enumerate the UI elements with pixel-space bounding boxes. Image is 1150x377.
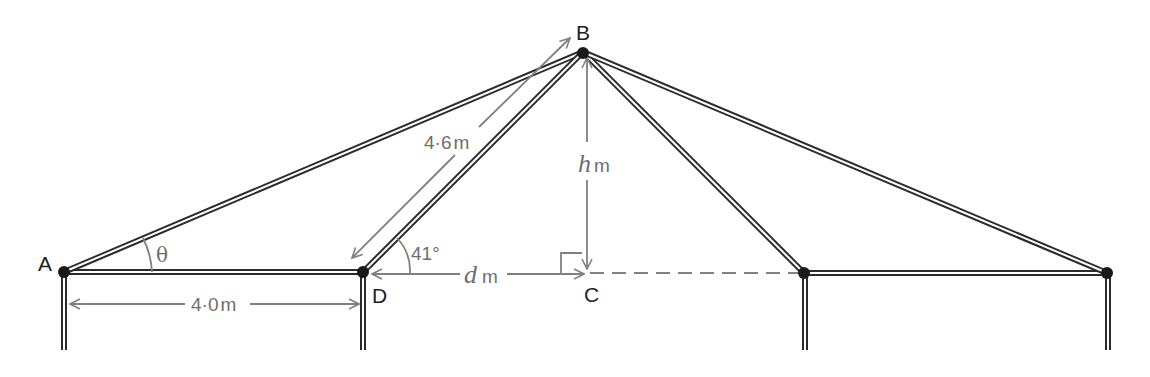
dim-label-d: dm	[464, 260, 498, 289]
node-f	[1101, 267, 1113, 279]
dim-d-unit: m	[482, 266, 498, 287]
angle-arc-41	[397, 238, 410, 273]
dim-ad-value: 4·0	[191, 294, 218, 315]
angle-arc-theta	[143, 238, 152, 272]
right-angle-marker	[561, 253, 582, 274]
dim-ad-unit: m	[220, 294, 236, 315]
label-d: D	[372, 284, 387, 307]
beam-db	[363, 52, 583, 272]
angle-label-theta: θ	[156, 243, 168, 267]
node-b	[577, 47, 589, 59]
node-d	[357, 266, 369, 278]
label-a: A	[38, 252, 52, 275]
dim-h-unit: m	[594, 155, 610, 176]
beam-bf	[583, 52, 1107, 273]
angle-label-41: 41°	[411, 243, 440, 264]
dimensions	[70, 38, 587, 304]
dim-label-h: hm	[578, 149, 610, 178]
beam-ab	[64, 52, 583, 272]
node-a	[58, 266, 70, 278]
roof-frame-diagram: A B C D 4·0m 4·6m hm dm θ 41°	[0, 0, 1150, 377]
dim-h-var: h	[578, 149, 591, 178]
dim-db-unit: m	[453, 132, 469, 153]
dim-d-var: d	[464, 260, 478, 289]
dim-db-value: 4·6	[424, 132, 451, 153]
label-b: B	[576, 21, 590, 44]
beam-be	[583, 52, 804, 273]
label-c: C	[584, 283, 599, 306]
node-e	[798, 267, 810, 279]
dim-label-ad: 4·0m	[191, 294, 236, 315]
dim-label-db: 4·6m	[424, 132, 469, 153]
